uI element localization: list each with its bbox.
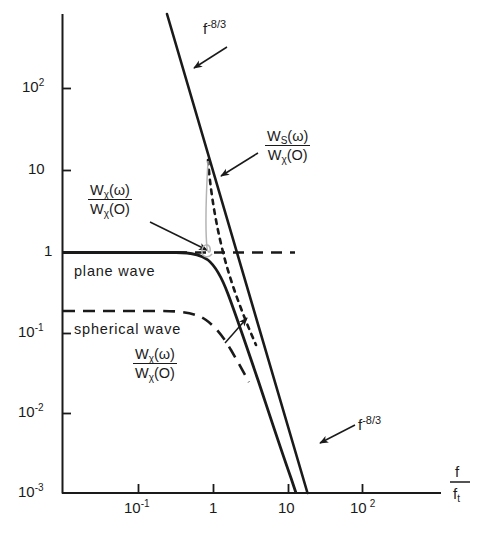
y-tick-label-1em1: 10-1 [18,324,44,339]
x-axis-ticks [139,484,363,493]
leader-plane-wave-curl [202,161,212,257]
power-law-lower-label: f-8/3 [358,417,381,432]
wchi-plane-numerator: Wχ(ω) [88,183,132,199]
leader-wchi-ratio-plane [150,222,207,250]
ws-ratio-denominator: Wχ(O) [265,145,310,163]
spherical-wave-label: spherical wave [74,322,181,337]
wchi-ratio-spherical-annotation: Wχ(ω) Wχ(O) [133,347,177,381]
leader-ws-ratio [221,153,258,176]
leader-power-law-upper [194,47,227,68]
y-tick-label-1em2: 10-2 [18,404,44,419]
x-tick-label-1e2: 10 2 [350,500,375,515]
x-tick-label-1em1: 10-1 [124,500,150,515]
figure-canvas [0,0,484,540]
x-tick-label-1e1: 10 [278,500,295,515]
y-tick-label-1e0: 1 [44,243,52,258]
x-axis-label-numerator: f [455,464,459,479]
leader-power-law-lower [320,425,355,443]
power-law-upper-label: f-8/3 [203,21,226,36]
y-tick-label-1e2: 102 [22,79,44,94]
log-log-spectrum-figure: 102 10 1 10-1 10-2 10-3 10-1 1 10 10 2 f… [0,0,484,540]
y-tick-label-1em3: 10-3 [18,484,44,499]
x-axis-label-denominator: ft [453,486,460,504]
wchi-spherical-denominator: Wχ(O) [133,363,177,381]
y-tick-label-1e1: 10 [28,161,45,176]
wchi-plane-denominator: Wχ(O) [88,199,132,217]
wchi-ratio-plane-annotation: Wχ(ω) Wχ(O) [88,183,132,217]
wchi-spherical-numerator: Wχ(ω) [133,347,177,363]
ws-ratio-annotation: WS(ω) Wχ(O) [265,129,310,163]
ws-ratio-numerator: WS(ω) [265,129,310,145]
series-plane-wave [63,253,296,494]
x-tick-label-1e0: 1 [209,500,217,515]
plane-wave-label: plane wave [74,264,155,279]
